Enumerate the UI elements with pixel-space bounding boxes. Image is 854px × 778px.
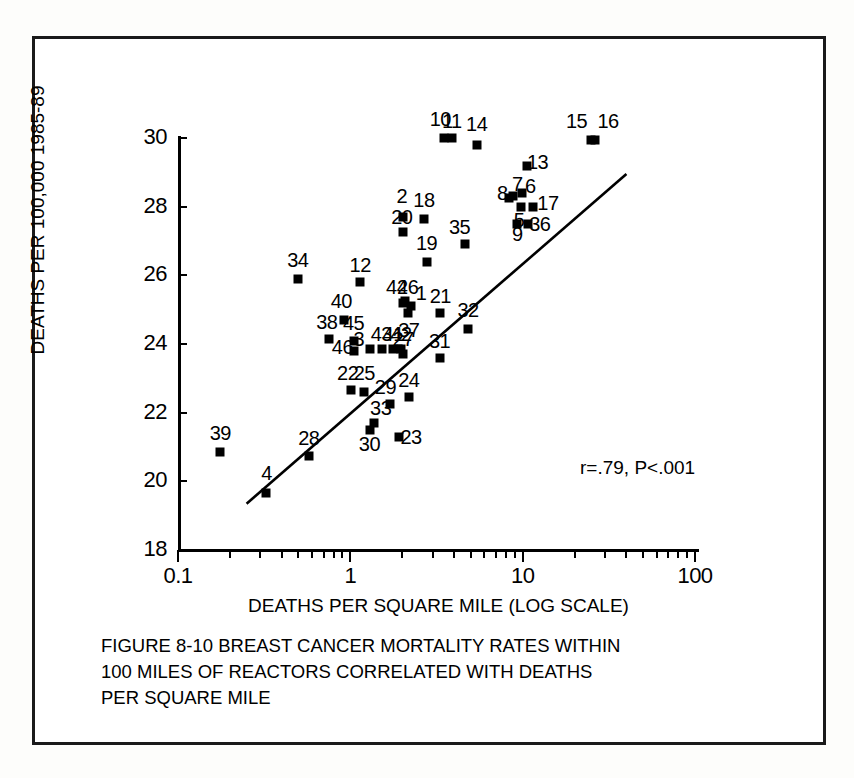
- data-point-label: 14: [466, 113, 487, 136]
- x-axis-tick-minor: [604, 550, 606, 558]
- caption-line-3: PER SQUARE MILE: [101, 685, 801, 711]
- data-point-label: 18: [413, 188, 434, 211]
- x-axis-tick-minor: [333, 550, 335, 558]
- data-point-label: 46: [332, 336, 353, 359]
- data-point-label: 17: [537, 192, 558, 215]
- x-axis-tick-minor: [642, 550, 644, 558]
- data-point-label: 43: [371, 322, 392, 345]
- data-point-label: 23: [400, 425, 421, 448]
- x-axis-tick-minor: [281, 550, 283, 558]
- data-point-marker: [591, 135, 600, 144]
- x-axis-tick-minor: [341, 550, 343, 558]
- data-point-marker: [464, 324, 473, 333]
- data-point-label: 38: [316, 310, 337, 333]
- x-axis-tick-minor: [495, 550, 497, 558]
- y-axis-tick: [178, 274, 187, 276]
- data-point-marker: [347, 386, 356, 395]
- x-axis-tick-label: 100: [677, 563, 712, 589]
- x-axis-tick-minor: [667, 550, 669, 558]
- y-axis-tick-label: 18: [125, 536, 167, 562]
- x-axis-label: DEATHS PER SQUARE MILE (LOG SCALE): [178, 595, 699, 617]
- data-point-label: 45: [343, 312, 364, 335]
- data-point-label: 7: [512, 173, 523, 196]
- data-point-marker: [396, 345, 405, 354]
- x-axis-tick-minor: [311, 550, 313, 558]
- y-axis-tick-label: 22: [125, 399, 167, 425]
- x-axis-tick-minor: [574, 550, 576, 558]
- x-axis-tick-minor: [514, 550, 516, 558]
- data-point-label: 2: [396, 185, 407, 208]
- x-axis-tick-minor: [686, 550, 688, 558]
- x-axis-tick-minor: [453, 550, 455, 558]
- y-axis-tick-label: 30: [125, 124, 167, 150]
- data-point-label: 16: [597, 109, 618, 132]
- x-axis-tick-minor: [259, 550, 261, 558]
- x-axis-tick-minor: [505, 550, 507, 558]
- data-point-marker: [447, 134, 456, 143]
- data-point-label: 25: [354, 362, 375, 385]
- x-axis-tick-minor: [229, 550, 231, 558]
- data-point-label: 35: [449, 216, 470, 239]
- y-axis-label: DEATHS PER 100,000 1985-89: [27, 20, 49, 420]
- x-axis-tick-minor: [625, 550, 627, 558]
- x-axis-tick-minor: [656, 550, 658, 558]
- x-axis-tick-minor: [401, 550, 403, 558]
- y-axis-tick: [178, 343, 187, 345]
- data-point-marker: [360, 388, 369, 397]
- data-point-label: 12: [350, 254, 371, 277]
- correlation-annotation: r=.79, P<.001: [580, 457, 695, 479]
- data-point-label: 21: [430, 284, 451, 307]
- caption-line-2: 100 MILES OF REACTORS CORRELATED WITH DE…: [101, 659, 801, 685]
- data-point-label: 31: [429, 329, 450, 352]
- data-point-marker: [436, 309, 445, 318]
- data-point-marker: [366, 345, 375, 354]
- x-axis-tick-label: 0.1: [163, 563, 192, 589]
- data-point-label: 6: [525, 175, 536, 198]
- data-point-label: 11: [442, 109, 462, 132]
- data-point-marker: [399, 298, 408, 307]
- x-axis-line: [178, 549, 699, 552]
- figure-caption: FIGURE 8-10 BREAST CANCER MORTALITY RATE…: [101, 633, 801, 711]
- data-point-marker: [356, 278, 365, 287]
- x-axis-tick-major: [349, 550, 351, 562]
- data-point-marker: [419, 214, 428, 223]
- data-point-marker: [304, 451, 313, 460]
- x-axis-tick-minor: [297, 550, 299, 558]
- data-point-label: 4: [261, 461, 272, 484]
- data-point-marker: [422, 257, 431, 266]
- data-point-marker: [262, 489, 271, 498]
- x-axis-tick-minor: [677, 550, 679, 558]
- data-point-label: 15: [566, 109, 587, 132]
- data-point-marker: [435, 353, 444, 362]
- x-axis-tick-label: 1: [344, 563, 356, 589]
- y-axis-tick-label: 24: [125, 330, 167, 356]
- data-point-label: 42: [390, 322, 411, 345]
- data-point-label: 40: [331, 290, 352, 313]
- caption-line-1: FIGURE 8-10 BREAST CANCER MORTALITY RATE…: [101, 633, 801, 659]
- data-point-label: 34: [287, 248, 308, 271]
- data-point-marker: [399, 228, 408, 237]
- data-point-marker: [369, 419, 378, 428]
- data-point-marker: [404, 393, 413, 402]
- data-point-label: 39: [210, 422, 231, 445]
- data-point-marker: [216, 448, 225, 457]
- x-axis-tick-label: 10: [511, 563, 534, 589]
- data-point-label: 28: [298, 427, 319, 450]
- x-axis-tick-minor: [323, 550, 325, 558]
- y-axis-tick: [178, 549, 187, 551]
- y-axis-tick-label: 20: [125, 467, 167, 493]
- data-point-label: 44: [386, 276, 407, 299]
- y-axis-tick-label: 28: [125, 193, 167, 219]
- figure-border: 18202224262830 0.1110100 123456789101112…: [32, 36, 826, 745]
- data-point-label: 9: [512, 223, 523, 246]
- x-axis-tick-major: [522, 550, 524, 562]
- data-point-label: 13: [527, 151, 548, 174]
- x-axis-tick-minor: [483, 550, 485, 558]
- y-axis-tick: [178, 412, 187, 414]
- page-background: 18202224262830 0.1110100 123456789101112…: [0, 0, 854, 778]
- data-point-label: 32: [458, 298, 479, 321]
- y-axis-tick: [178, 206, 187, 208]
- data-point-marker: [293, 274, 302, 283]
- x-axis-tick-major: [694, 550, 696, 562]
- data-point-label: 19: [416, 231, 437, 254]
